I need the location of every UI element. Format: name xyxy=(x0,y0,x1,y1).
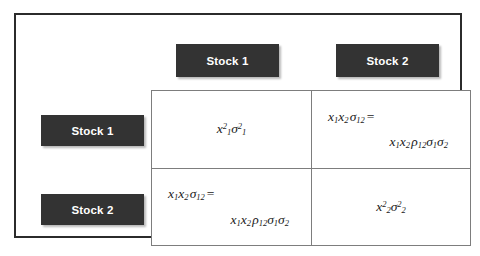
matrix-cell-s2-s1: x1x2 σ12= x1x2 ρ12σ1σ2 xyxy=(152,168,311,245)
term-sigma: σ xyxy=(278,212,285,227)
subscript-2: 2 xyxy=(344,115,348,125)
subscript-1: 1 xyxy=(242,128,246,138)
expression-covariance-rhs-top: x1x2 ρ12σ1σ2 xyxy=(324,135,458,149)
row-header-stock-2-label: Stock 2 xyxy=(72,204,114,216)
term-sigma: σ xyxy=(437,134,444,149)
matrix-cell-s1-s2: x1x2 σ12= x1x2 ρ12σ1σ2 xyxy=(311,91,470,168)
subscript-2: 2 xyxy=(444,140,448,150)
equals-sign: = xyxy=(365,109,375,124)
term-sigma: σ xyxy=(231,121,238,136)
row-header-stock-1-label: Stock 1 xyxy=(72,125,114,137)
subscript-12: 12 xyxy=(196,193,205,203)
column-header-stock-1-label: Stock 1 xyxy=(207,55,249,67)
term-sigma: σ xyxy=(426,134,433,149)
row-header-stock-1: Stock 1 xyxy=(41,115,144,146)
subscript-2: 2 xyxy=(247,218,251,228)
term-sigma: σ xyxy=(267,212,274,227)
subscript-2: 2 xyxy=(184,193,188,203)
subscript-2: 2 xyxy=(406,140,410,150)
subscript-2: 2 xyxy=(402,205,406,215)
expression-covariance-lhs-bottom: x1x2 σ12= xyxy=(164,187,299,201)
subscript-12: 12 xyxy=(356,115,365,125)
row-header-stock-2: Stock 2 xyxy=(41,194,144,225)
matrix-cell-s1-s1: x21σ21 xyxy=(152,91,311,168)
column-header-stock-2: Stock 2 xyxy=(336,44,439,77)
figure-frame: Stock 1 Stock 2 Stock 1 Stock 2 x21σ21 x… xyxy=(14,13,462,238)
covariance-matrix: x21σ21 x1x2 σ12= x1x2 ρ12σ1σ2 x1x2 σ12= … xyxy=(151,90,471,246)
expression-variance-stock-2: x22σ22 xyxy=(324,200,458,214)
equals-sign: = xyxy=(205,186,215,201)
matrix-cell-s2-s2: x22σ22 xyxy=(311,168,470,245)
column-header-stock-2-label: Stock 2 xyxy=(367,55,409,67)
expression-covariance-rhs-bottom: x1x2 ρ12σ1σ2 xyxy=(164,213,299,227)
expression-covariance-lhs-top: x1x2 σ12= xyxy=(324,110,458,124)
subscript-12: 12 xyxy=(418,140,427,150)
subscript-2: 2 xyxy=(285,218,289,228)
expression-variance-stock-1: x21σ21 xyxy=(164,122,299,136)
subscript-12: 12 xyxy=(259,218,268,228)
column-header-stock-1: Stock 1 xyxy=(176,44,279,77)
